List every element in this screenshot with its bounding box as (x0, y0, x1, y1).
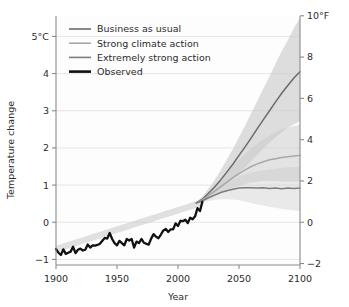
y-tick-label-right-6: 6 (307, 93, 313, 104)
y-tick-label-right-2: 2 (307, 175, 313, 186)
y-tick-label-left-1: 1 (43, 180, 49, 191)
x-tick-label-2050: 2050 (227, 273, 251, 284)
y-tick-label-left-4: 4 (43, 68, 49, 79)
climate-projection-chart: 19001950200020502100 −1012345°C −2024681… (0, 0, 349, 307)
chart-canvas: 19001950200020502100 −1012345°C −2024681… (0, 0, 349, 307)
legend-label-1: Strong climate action (97, 38, 199, 49)
y-tick-label-left-3: 3 (43, 105, 49, 116)
y-tick-label-right-0: 0 (307, 217, 313, 228)
legend-label-3: Observed (97, 66, 143, 77)
y-tick-label-left--1: −1 (35, 254, 49, 265)
y-tick-label-right-8: 8 (307, 51, 313, 62)
x-tick-label-2100: 2100 (288, 273, 312, 284)
legend-label-0: Business as usual (97, 23, 181, 34)
y-tick-label-right--2: −2 (307, 258, 321, 269)
x-tick-label-2000: 2000 (166, 273, 190, 284)
x-tick-label-1950: 1950 (105, 273, 129, 284)
y-tick-label-right-10: 10°F (307, 10, 329, 21)
y-axis-label: Temperature change (5, 101, 16, 200)
y-tick-label-left-2: 2 (43, 142, 49, 153)
x-tick-label-1900: 1900 (44, 273, 68, 284)
y-tick-label-left-5: 5°C (32, 31, 50, 42)
legend-label-2: Extremely strong action (97, 52, 211, 63)
y-tick-label-right-4: 4 (307, 134, 313, 145)
x-axis-label: Year (167, 291, 188, 302)
y-tick-label-left-0: 0 (43, 217, 49, 228)
